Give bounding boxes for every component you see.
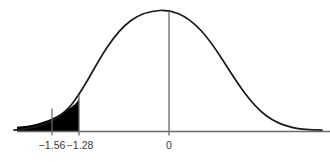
x-tick-label-zero: 0 [166,139,172,151]
shaded-left-tail-region [17,98,79,131]
x-tick-label-neg-1-56: −1.56 [38,139,65,151]
normal-distribution-plot [0,0,330,162]
x-tick-label-neg-1-28: −1.28 [66,139,93,151]
normal-curve-line [14,10,322,130]
normal-curve-figure: −1.56 −1.28 0 [0,0,330,162]
